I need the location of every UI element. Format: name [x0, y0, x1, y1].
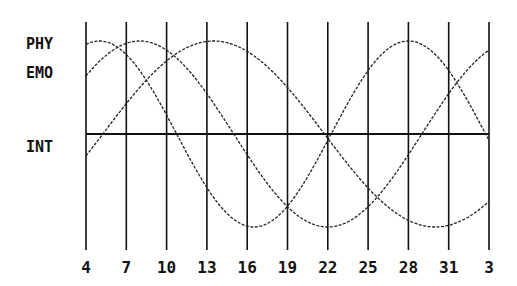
x-tick-label: 10 — [157, 258, 176, 277]
x-tick-label: 25 — [358, 258, 377, 277]
x-tick-label: 7 — [121, 258, 131, 277]
legend-label-int: INT — [26, 138, 53, 156]
x-tick-label: 31 — [439, 258, 458, 277]
x-tick-label: 19 — [278, 258, 297, 277]
legend-label-phy: PHY — [26, 35, 53, 53]
biorhythm-chart — [0, 0, 517, 286]
x-tick-label: 3 — [484, 258, 494, 277]
x-tick-label: 16 — [238, 258, 257, 277]
legend-label-emo: EMO — [26, 64, 53, 82]
vertical-gridlines — [86, 22, 489, 250]
x-tick-label: 13 — [197, 258, 216, 277]
x-tick-label: 4 — [81, 258, 91, 277]
x-tick-label: 28 — [399, 258, 418, 277]
x-tick-label: 22 — [318, 258, 337, 277]
